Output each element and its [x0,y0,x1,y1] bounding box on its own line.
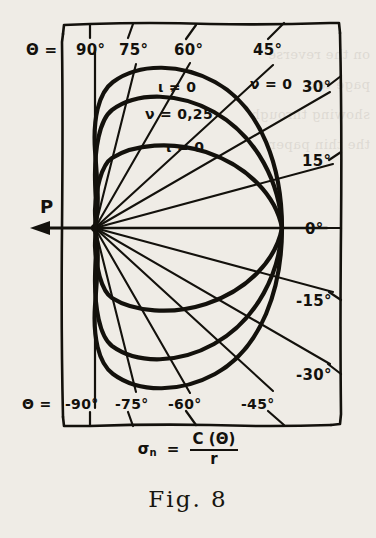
formula-numerator: C (Θ) [190,432,239,448]
right-angle-neg15: -15° [296,292,332,310]
formula-denominator: r [190,452,239,468]
sigma-subscript: n [149,447,156,458]
force-arrow-head [30,221,50,235]
theta-prefix-bottom: Θ = [22,396,51,412]
top-angle-60: 60° [174,41,203,59]
curve-label-nu-zero: ν = 0 [250,76,292,92]
top-angle-45: 45° [253,41,282,59]
right-leader-ticks [327,76,341,374]
force-label-P: P [40,196,54,217]
theta-prefix-top: Θ = [26,41,57,59]
top-angle-75: 75° [119,41,148,59]
right-angle-0: 0° [305,220,324,238]
bottom-angle-neg75: -75° [115,396,149,412]
right-angle-neg30: -30° [296,366,332,384]
right-angle-15: 15° [302,152,331,170]
figure-caption: Fig. 8 [0,486,376,512]
sigma-symbol: σ [138,440,150,458]
figure-stage: on the reverse page text showing through… [0,0,376,538]
equals-sign: = [167,440,180,458]
top-angle-90: 90° [76,41,105,59]
curve-label-iota-zero: ι = 0 [166,139,204,155]
bottom-angle-neg90: -90° [65,396,99,412]
right-angle-30: 30° [302,78,331,96]
bottom-angle-neg45: -45° [241,396,275,412]
bottom-angle-neg60: -60° [168,396,202,412]
curve-label-nu-025: ν = 0,25 [145,106,213,122]
stress-formula: σn = C (Θ) r [0,432,376,468]
curve-label-iota-nonzero: ι ≠ 0 [158,79,196,95]
formula-fraction: C (Θ) r [190,432,239,468]
